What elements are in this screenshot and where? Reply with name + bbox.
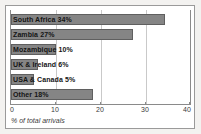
bar-label-south-africa: South Africa 34%: [13, 14, 72, 25]
xtick-20: 20: [96, 106, 104, 113]
bar-row: South Africa 34%: [11, 14, 191, 25]
x-axis-ticks: 0 10 20 30 40: [10, 106, 191, 116]
bar-label-mozambique: Mozambique 10%: [13, 44, 73, 55]
tickmark-40: [189, 102, 190, 105]
bar-row: Other 18%: [11, 89, 191, 100]
tickmark-20: [100, 102, 101, 105]
bar-row: Mozambique 10%: [11, 44, 191, 55]
bar-label-zambia: Zambia 27%: [13, 29, 54, 40]
tickmark-10: [55, 102, 56, 105]
tickmark-0: [10, 102, 11, 105]
tickmark-30: [145, 102, 146, 105]
bar-label-uk-ireland: UK & Ireland 6%: [13, 59, 69, 70]
bar-series: South Africa 34% Zambia 27% Mozambique 1…: [11, 10, 191, 104]
bar-label-other: Other 18%: [13, 89, 49, 100]
bar-chart: South Africa 34% Zambia 27% Mozambique 1…: [0, 0, 201, 134]
plot-area: South Africa 34% Zambia 27% Mozambique 1…: [10, 10, 191, 105]
xtick-40: 40: [183, 106, 191, 113]
xtick-0: 0: [10, 106, 14, 113]
bar-row: Zambia 27%: [11, 29, 191, 40]
x-axis-label: % of total arrivals: [11, 117, 65, 124]
bar-row: UK & Ireland 6%: [11, 59, 191, 70]
chart-panel: South Africa 34% Zambia 27% Mozambique 1…: [5, 5, 195, 129]
bar-label-usa-canada: USA & Canada 5%: [13, 74, 75, 85]
xtick-10: 10: [51, 106, 59, 113]
bar-row: USA & Canada 5%: [11, 74, 191, 85]
xtick-30: 30: [141, 106, 149, 113]
